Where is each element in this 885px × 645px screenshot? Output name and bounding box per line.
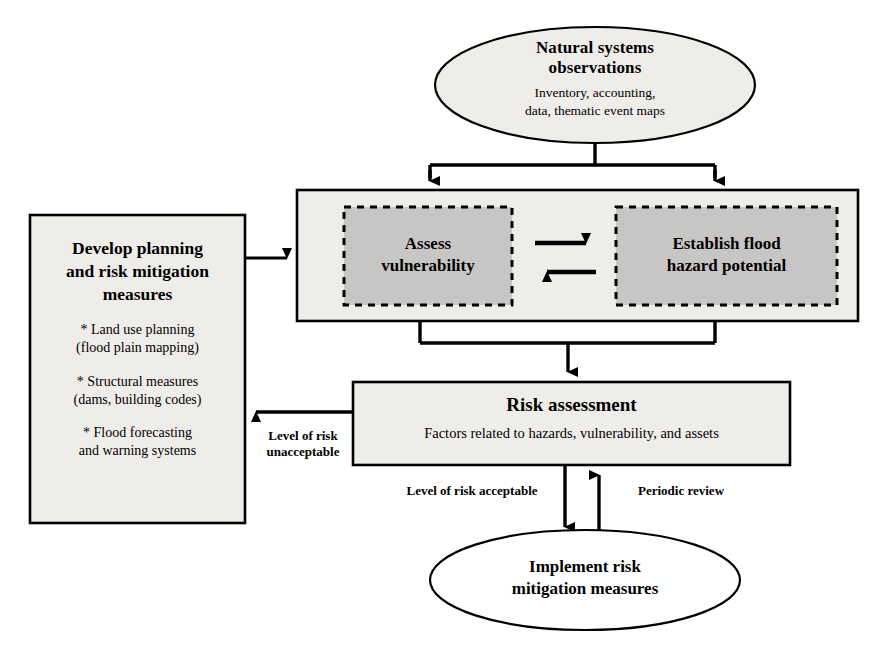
connector-observations-split [430,143,715,178]
node-assess-vulnerability-shape[interactable] [344,207,512,305]
node-natural-systems-shape[interactable] [435,27,755,143]
diagram-graphics [0,0,885,645]
node-implement-shape[interactable] [430,530,740,630]
node-risk-assessment-shape[interactable] [353,382,790,465]
diagram-canvas: Natural systems observations Inventory, … [0,0,885,645]
node-establish-hazard-shape[interactable] [616,207,837,305]
node-develop-planning-shape[interactable] [30,215,245,523]
connector-assessment-merge [420,321,715,343]
